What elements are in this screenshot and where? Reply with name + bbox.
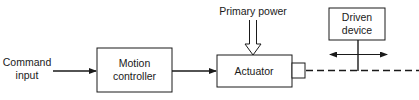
driven-device-line2: device — [342, 24, 373, 36]
command-input-label: Command input — [3, 56, 52, 81]
motion-controller-line2: controller — [113, 70, 157, 82]
actuator-shaft-stub — [292, 63, 305, 78]
driven-device-block: Driven device — [329, 8, 385, 40]
motion-controller-line1: Motion — [119, 57, 151, 69]
actuator-block: Actuator — [217, 55, 305, 87]
command-input-line1: Command — [3, 56, 52, 68]
motion-controller-block: Motion controller — [97, 48, 172, 92]
actuator-label: Actuator — [234, 65, 274, 77]
motion-control-diagram: Command input Motion controller Primary … — [0, 0, 419, 100]
primary-power-label: Primary power — [219, 5, 287, 17]
primary-power-arrow-icon — [245, 20, 261, 55]
command-input-line2: input — [16, 69, 39, 81]
driven-device-line1: Driven — [342, 11, 373, 23]
